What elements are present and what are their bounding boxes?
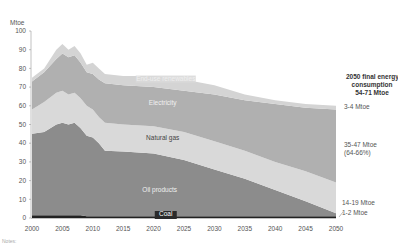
label-natural-gas: Natural gas [146,134,180,142]
renewables-2050-annotation: 3-4 Mtoe [344,103,370,111]
x-tick-label: 2035 [238,225,253,232]
x-tick-label: 2000 [25,225,40,232]
electricity-annotation-line1: 35-47 Mtoe [344,141,377,149]
y-tick-label: 60 [19,102,27,109]
y-tick-label: 10 [19,196,27,203]
y-tick-label: 100 [15,27,26,34]
electricity-annotation-line2: (64-66%) [344,149,377,157]
footnote: Notes: [2,238,16,244]
total-annotation-line1: 2050 final energy [346,73,398,81]
x-tick-label: 2045 [298,225,313,232]
y-tick-label: 80 [19,65,27,72]
stacked-area-chart: 0102030405060708090100 20002005201020152… [0,0,398,247]
y-tick-label: 50 [19,121,27,128]
x-tick-label: 2030 [207,225,222,232]
x-tick-label: 2015 [116,225,131,232]
x-tick-label: 2010 [86,225,101,232]
coal-2050-annotation: 1-2 Mtoe [342,209,368,217]
x-axis: 2000200520102015202020252030203520402045… [25,219,344,233]
label-electricity: Electricity [149,99,178,107]
y-tick-label: 0 [22,214,26,221]
x-tick-label: 2005 [55,225,70,232]
label-coal: Coal [159,210,173,217]
x-tick-label: 2025 [177,225,192,232]
total-annotation-line3: 54-71 Mtoe [346,89,398,97]
x-tick-label: 2020 [146,225,161,232]
y-axis: 0102030405060708090100 [15,27,31,221]
oil-2050-annotation: 14-19 Mtoe [342,199,375,207]
label-end-use-renewables: End-use renewables [136,75,196,82]
y-tick-label: 30 [19,158,27,165]
x-tick-label: 2040 [268,225,283,232]
chart-areas [32,44,336,218]
y-tick-label: 90 [19,46,27,53]
y-tick-label: 20 [19,177,27,184]
electricity-2050-annotation: 35-47 Mtoe (64-66%) [344,141,377,157]
y-axis-unit-label: Mtoe [10,19,25,26]
total-annotation-line2: consumption [346,81,398,89]
total-2050-annotation: 2050 final energy consumption 54-71 Mtoe [346,73,398,97]
x-tick-label: 2050 [329,225,344,232]
label-oil-products: Oil products [142,186,177,194]
y-tick-label: 40 [19,139,27,146]
y-tick-label: 70 [19,83,27,90]
